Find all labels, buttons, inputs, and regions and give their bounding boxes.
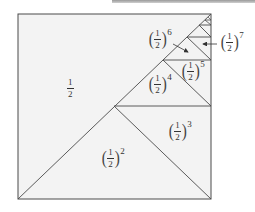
label-half-pow6: ( 12 ) 6 [148,29,172,50]
label-half-pow7: ( 12 ) 7 [220,32,244,53]
label-half: 1 2 [67,78,74,99]
label-half-pow4: ( 12 ) 4 [148,74,172,95]
square-subdivision-diagram [0,0,255,212]
label-half-pow3: ( 12 ) 3 [168,121,192,142]
label-half-pow2: ( 12 ) 2 [101,148,125,169]
label-half-pow5: ( 12 ) 5 [181,61,205,82]
